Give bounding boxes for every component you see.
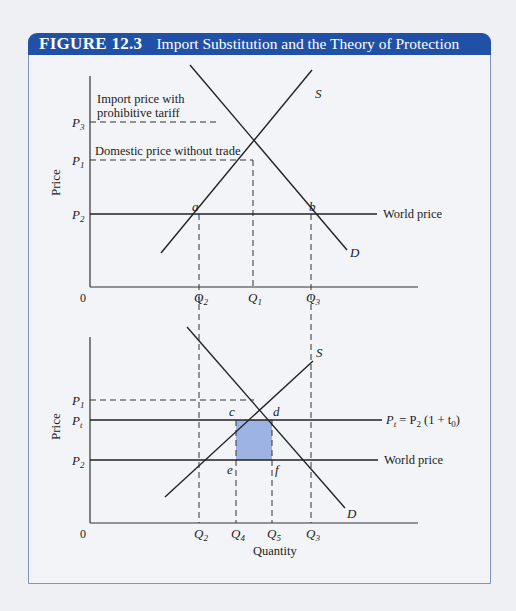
bottom-supply-curve [165, 361, 313, 497]
bottom-p2-label: P2 [71, 453, 85, 470]
import-price-label-line1: Import price with [97, 92, 185, 106]
top-price-axis-label: Price [48, 169, 63, 196]
point-d-label: d [273, 404, 280, 419]
bottom-q2-label: Q2 [194, 526, 208, 543]
q4-label: Q4 [231, 526, 245, 543]
point-b-label: b [309, 199, 316, 214]
top-panel: Price 0 P3 P1 P2 Import price with prohi… [48, 65, 442, 372]
p1-label: P1 [71, 153, 84, 170]
point-c-label: c [229, 404, 235, 419]
bottom-price-axis-label: Price [48, 413, 63, 440]
pt-label: Pt [71, 413, 83, 430]
top-demand-label: D [349, 245, 360, 260]
top-q1-label: Q1 [248, 290, 262, 307]
bottom-p1-label: P1 [71, 393, 84, 410]
p3-label: P3 [71, 115, 85, 132]
top-q2-label: Q2 [194, 290, 208, 307]
bottom-origin-label: 0 [80, 527, 86, 541]
tariff-price-equation: Pt = P2 (1 + t0) [385, 413, 460, 429]
quantity-axis-label: Quantity [253, 544, 297, 558]
domestic-price-label: Domestic price without trade [95, 144, 241, 158]
point-f-label: f [275, 462, 281, 477]
import-price-label-line2: prohibitive tariff [97, 106, 181, 120]
bottom-world-price-label: World price [384, 453, 443, 467]
bottom-demand-label: D [346, 506, 357, 521]
point-e-label: e [227, 462, 233, 477]
diagram-canvas: Price 0 P3 P1 P2 Import price with prohi… [0, 0, 516, 611]
bottom-q3-label: Q3 [306, 526, 320, 543]
point-a-label: a [192, 199, 199, 214]
q5-label: Q5 [267, 526, 281, 543]
p2-label: P2 [71, 207, 85, 224]
top-origin-label: 0 [80, 291, 86, 305]
bottom-supply-label: S [316, 345, 323, 360]
top-supply-label: S [315, 86, 322, 101]
bottom-panel: Price 0 Quantity P1 Pt P2 Pt = P2 (1 + t… [48, 327, 460, 558]
top-world-price-label: World price [383, 207, 442, 221]
top-q3-label: Q3 [306, 290, 320, 307]
